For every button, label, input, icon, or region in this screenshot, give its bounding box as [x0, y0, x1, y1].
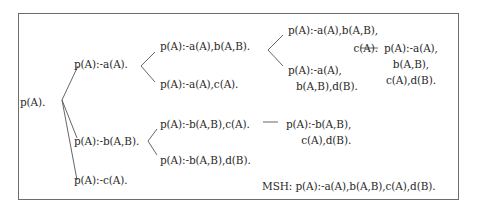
node-bd: p(A):-b(A,B),d(B). — [160, 152, 251, 168]
node-abcd: p(A):-a(A), b(A,B), c(A),d(B). — [384, 40, 438, 88]
msh-label-text: MSH: p(A):-a(A),b(A,B),c(A),d(B). — [262, 178, 435, 194]
node-ac: p(A):-a(A),c(A). — [160, 76, 238, 92]
node-ac-line: p(A):-a(A),c(A). — [160, 76, 238, 92]
msh-label: MSH: p(A):-a(A),b(A,B),c(A),d(B). — [262, 178, 435, 194]
edge-ab-abc — [268, 35, 283, 50]
node-a: p(A):-a(A). — [74, 56, 128, 72]
node-b: p(A):-b(A,B). — [74, 133, 139, 149]
node-root-line: p(A). — [20, 94, 45, 110]
node-abcd-line-3: c(A),d(B). — [384, 72, 438, 88]
node-b-line: p(A):-b(A,B). — [74, 133, 139, 149]
node-bcd: p(A):-b(A,B), c(A),d(B). — [286, 116, 351, 148]
node-abcd-line-2: b(A,B), — [384, 56, 438, 72]
node-abcd-line-1: p(A):-a(A), — [384, 40, 438, 56]
node-root: p(A). — [20, 94, 45, 110]
node-bc-line: p(A):-b(A,B),c(A). — [160, 116, 250, 132]
node-abc: p(A):-a(A),b(A,B), c(A). — [288, 22, 378, 56]
edge-ab-abd — [268, 50, 283, 66]
node-abc-line-1: p(A):-a(A),b(A,B), — [288, 22, 378, 38]
node-bc: p(A):-b(A,B),c(A). — [160, 116, 250, 132]
node-abd: p(A):-a(A), b(A,B),d(B). — [288, 62, 358, 94]
edge-a-ab — [141, 52, 155, 66]
node-bd-line: p(A):-b(A,B),d(B). — [160, 152, 251, 168]
node-ab: p(A):-a(A),b(A,B). — [160, 38, 250, 54]
node-abc-line-2: c(A). — [288, 40, 378, 56]
node-ab-line: p(A):-a(A),b(A,B). — [160, 38, 250, 54]
edge-b-bd — [148, 141, 157, 155]
node-a-line: p(A):-a(A). — [74, 56, 128, 72]
edge-b-bc — [148, 129, 157, 141]
node-abd-line-1: p(A):-a(A), — [288, 62, 358, 78]
edge-a-ac — [141, 66, 155, 82]
node-bcd-line-2: c(A),d(B). — [286, 132, 351, 148]
node-c-line: p(A):-c(A). — [74, 172, 127, 188]
node-bcd-line-1: p(A):-b(A,B), — [286, 116, 351, 132]
node-abd-line-2: b(A,B),d(B). — [288, 78, 358, 94]
node-c: p(A):-c(A). — [74, 172, 127, 188]
